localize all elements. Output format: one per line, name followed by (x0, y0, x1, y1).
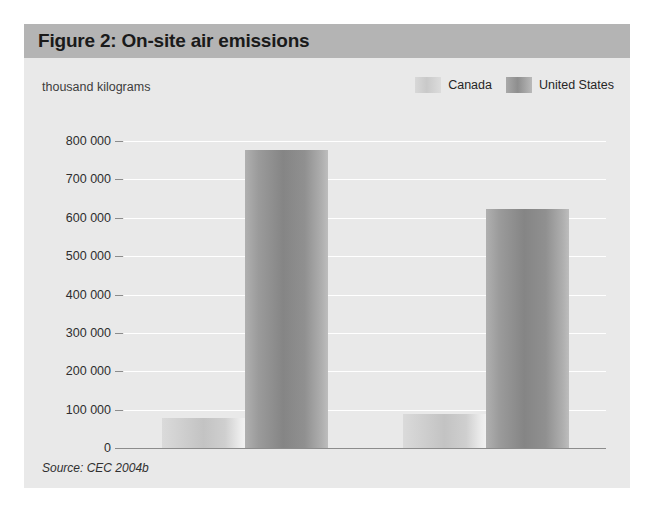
legend-item-united-states: United States (506, 77, 614, 93)
y-axis-tick (115, 448, 123, 449)
legend-label-canada: Canada (448, 78, 492, 92)
y-axis-tick-label: 600 000 (66, 211, 111, 225)
y-axis-tick-label: 400 000 (66, 288, 111, 302)
gridline (124, 141, 606, 142)
y-axis-tick (115, 333, 123, 334)
source-note: Source: CEC 2004b (42, 461, 149, 475)
y-axis-tick-label: 800 000 (66, 134, 111, 148)
legend-item-canada: Canada (415, 77, 492, 93)
y-axis-tick (115, 179, 123, 180)
bar-canada-1998 (162, 418, 245, 448)
bar-united-states-1998 (245, 150, 328, 448)
y-axis-tick (115, 256, 123, 257)
legend-label-united-states: United States (539, 78, 614, 92)
y-axis-tick (115, 371, 123, 372)
y-axis-tick (115, 295, 123, 296)
y-axis-tick-label: 200 000 (66, 364, 111, 378)
page-title: Figure 2: On-site air emissions (38, 30, 310, 52)
y-axis-tick (115, 218, 123, 219)
chart-area: thousand kilograms Canada United States … (24, 58, 630, 488)
gridline (124, 179, 606, 180)
y-axis-tick (115, 410, 123, 411)
y-axis-tick-label: 500 000 (66, 249, 111, 263)
y-axis-tick-label: 100 000 (66, 403, 111, 417)
figure-title-band: Figure 2: On-site air emissions (24, 24, 630, 58)
figure-container: Figure 2: On-site air emissions thousand… (24, 24, 630, 488)
chart-legend: Canada United States (415, 77, 614, 93)
y-axis-tick (115, 141, 123, 142)
legend-swatch-united-states-icon (506, 77, 532, 93)
y-axis-unit-label: thousand kilograms (42, 80, 150, 94)
y-axis-tick-label: 0 (104, 441, 111, 455)
axis-baseline (115, 448, 606, 449)
legend-swatch-canada-icon (415, 77, 441, 93)
y-axis-tick-label: 300 000 (66, 326, 111, 340)
plot-area: 0100 000200 000300 000400 000500 000600 … (124, 141, 606, 448)
bar-united-states-2001 (486, 209, 569, 448)
y-axis-tick-label: 700 000 (66, 172, 111, 186)
bar-canada-2001 (403, 414, 486, 448)
